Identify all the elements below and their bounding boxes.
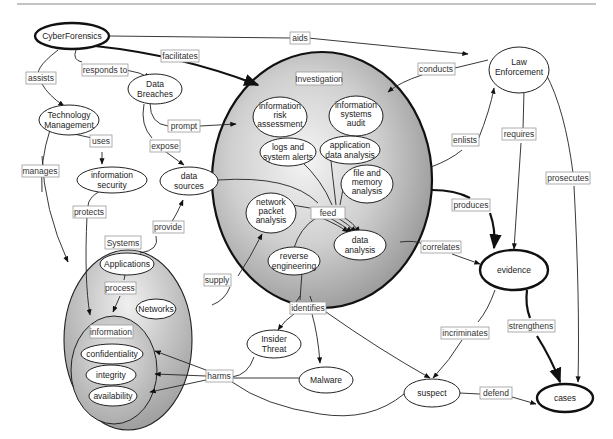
svg-text:application: application	[330, 140, 371, 150]
label-systems: Systems	[105, 236, 141, 249]
svg-text:Breaches: Breaches	[137, 89, 173, 99]
svg-text:Networks: Networks	[138, 304, 173, 314]
edge-enlists-2	[478, 88, 494, 140]
node-application-data-analysis: application data analysis	[320, 136, 380, 164]
label-identifies: identifies	[290, 302, 326, 314]
edge-incriminates-2	[433, 340, 462, 378]
label-requires: requires	[502, 128, 536, 140]
svg-text:manages: manages	[23, 166, 58, 176]
svg-text:correlates: correlates	[422, 242, 459, 252]
edge-insider-harms	[232, 357, 254, 377]
edge-conducts	[455, 60, 488, 68]
node-data-sources: data sources	[160, 167, 218, 195]
node-applications: Applications	[100, 253, 154, 275]
svg-text:data: data	[352, 235, 369, 245]
label-enlists: enlists	[452, 134, 479, 146]
label-expose: expose	[150, 140, 180, 152]
svg-text:assists: assists	[28, 73, 54, 83]
edge-requires	[523, 90, 524, 130]
edge-supply	[212, 287, 230, 305]
node-information-systems-audit: information systems audit	[329, 96, 383, 136]
svg-text:Applications: Applications	[104, 259, 150, 269]
svg-text:availability: availability	[93, 391, 133, 401]
label-assists: assists	[26, 72, 56, 84]
svg-text:integrity: integrity	[96, 370, 127, 380]
label-manages: manages	[22, 165, 59, 177]
edge-prosecutes	[546, 74, 573, 173]
label-facilitates: facilitates	[161, 50, 199, 62]
node-network-packet-analysis: network packet analysis	[246, 193, 296, 233]
svg-text:provide: provide	[154, 222, 182, 232]
svg-text:Law: Law	[511, 57, 527, 67]
node-availability: availability	[89, 386, 137, 406]
svg-text:aids: aids	[292, 33, 308, 43]
edge-incriminates	[478, 290, 495, 322]
label-feed: feed	[311, 207, 345, 219]
node-law-enforcement: Law Enforcement	[489, 47, 549, 93]
svg-text:Insider: Insider	[261, 334, 287, 344]
edge-manages	[42, 130, 50, 192]
svg-text:analysis: analysis	[352, 186, 383, 196]
label-correlates: correlates	[421, 241, 461, 253]
svg-text:evidence: evidence	[497, 265, 531, 275]
label-prosecutes: prosecutes	[546, 172, 590, 184]
label-defend: defend	[480, 387, 512, 399]
node-integrity: integrity	[86, 365, 136, 385]
svg-text:prompt: prompt	[171, 121, 198, 131]
node-information-security: information security	[77, 167, 147, 193]
svg-text:incriminates: incriminates	[442, 328, 487, 338]
svg-text:cases: cases	[554, 393, 576, 403]
edge-correlates-2	[452, 254, 480, 264]
node-logs-and-system-alerts: logs and system alerts	[260, 138, 316, 166]
edge-produces-2	[490, 213, 495, 248]
node-data-analysis: data analysis	[334, 230, 386, 260]
edge-assists-2	[42, 84, 64, 106]
label-uses: uses	[90, 135, 112, 147]
svg-text:requires: requires	[504, 129, 535, 139]
node-reverse-engineering: reverse engineering	[268, 247, 320, 275]
edge-strengthens-2	[537, 336, 560, 382]
svg-text:protects: protects	[74, 207, 104, 217]
svg-text:Systems: Systems	[107, 238, 140, 248]
node-data-breaches: Data Breaches	[128, 74, 182, 104]
svg-text:Threat: Threat	[262, 344, 287, 354]
investigation-container	[212, 52, 432, 308]
edge-prosecutes-2	[574, 186, 579, 382]
svg-text:Malware: Malware	[310, 375, 342, 385]
svg-text:feed: feed	[320, 208, 337, 218]
svg-text:analysis: analysis	[256, 215, 287, 225]
svg-text:reverse: reverse	[280, 251, 309, 261]
label-provide: provide	[153, 221, 184, 233]
edge-strengthens	[526, 290, 530, 318]
node-cases: cases	[537, 384, 593, 412]
svg-text:Data: Data	[146, 79, 164, 89]
svg-text:confidentiality: confidentiality	[86, 349, 138, 359]
edge-requires-2	[514, 143, 521, 249]
edge-expose-2	[166, 152, 184, 165]
svg-text:engineering: engineering	[272, 261, 317, 271]
svg-text:enlists: enlists	[453, 135, 477, 145]
node-cyberforensics: CyberForensics	[35, 23, 109, 49]
svg-text:system alerts: system alerts	[263, 152, 313, 162]
node-technology-management: Technology Management	[39, 105, 99, 135]
svg-text:CyberForensics: CyberForensics	[42, 31, 102, 41]
edge-identifies-suspect	[326, 312, 430, 378]
svg-text:defend: defend	[483, 388, 509, 398]
edge-defend	[459, 393, 480, 394]
svg-text:identifies: identifies	[291, 303, 325, 313]
svg-text:facilitates: facilitates	[162, 51, 197, 61]
node-networks: Networks	[136, 299, 176, 319]
svg-text:audit: audit	[347, 118, 366, 128]
label-strengthens: strengthens	[508, 320, 555, 332]
svg-text:prosecutes: prosecutes	[547, 173, 589, 183]
svg-text:assessment: assessment	[257, 119, 303, 129]
node-insider-threat: Insider Threat	[247, 330, 301, 358]
edge-produces	[432, 190, 470, 198]
node-evidence: evidence	[480, 250, 548, 290]
edge-identifies-malware	[312, 314, 320, 363]
label-produces: produces	[452, 199, 490, 211]
label-incriminates: incriminates	[441, 327, 489, 339]
node-malware: Malware	[299, 367, 353, 393]
label-harms: harms	[206, 370, 233, 382]
edge-provide	[140, 236, 157, 253]
